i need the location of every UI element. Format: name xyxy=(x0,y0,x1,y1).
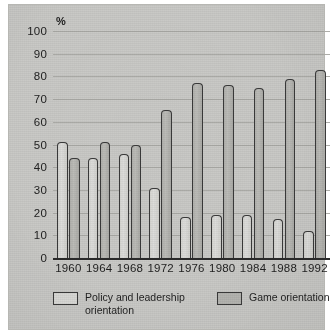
bar-game-1984 xyxy=(254,88,265,258)
legend-item-policy: Policy and leadership orientation xyxy=(53,291,203,316)
legend-label-policy: Policy and leadership orientation xyxy=(85,291,185,316)
bar-game-1968 xyxy=(131,145,142,259)
bar-policy-1980 xyxy=(211,215,222,258)
x-axis-ticks: 196019641968197219761980198419881992 xyxy=(53,262,330,280)
bar-policy-1992 xyxy=(303,231,314,258)
bar-policy-1972 xyxy=(149,188,160,258)
x-tick-label-1976: 1976 xyxy=(178,262,204,274)
y-tick-label: 10 xyxy=(34,229,47,241)
gridline xyxy=(53,31,330,32)
bar-game-1976 xyxy=(192,83,203,258)
y-tick-label: 90 xyxy=(34,48,47,60)
legend-swatch-game-icon xyxy=(217,292,242,305)
axis-baseline xyxy=(53,258,330,260)
bar-policy-1984 xyxy=(242,215,253,258)
legend-item-game: Game orientation xyxy=(217,291,330,305)
bar-game-1988 xyxy=(285,79,296,258)
gridline xyxy=(53,54,330,55)
y-tick-label: 80 xyxy=(34,70,47,82)
legend-label-game-line1: Game orientation xyxy=(249,291,330,303)
x-tick-label-1980: 1980 xyxy=(209,262,235,274)
x-tick-label-1984: 1984 xyxy=(240,262,266,274)
y-tick-label: 70 xyxy=(34,93,47,105)
bar-policy-1968 xyxy=(119,154,130,258)
legend-label-game: Game orientation xyxy=(249,291,330,304)
x-tick-label-1964: 1964 xyxy=(86,262,112,274)
chart-legend: Policy and leadership orientation Game o… xyxy=(53,291,333,316)
x-tick-label-1972: 1972 xyxy=(148,262,174,274)
legend-label-policy-line2: orientation xyxy=(85,304,134,316)
bar-game-1960 xyxy=(69,158,80,258)
x-tick-label-1968: 1968 xyxy=(117,262,143,274)
legend-swatch-policy-icon xyxy=(53,292,78,305)
bar-policy-1964 xyxy=(88,158,99,258)
bar-policy-1976 xyxy=(180,217,191,258)
y-tick-label: 60 xyxy=(34,116,47,128)
y-axis-unit-label: % xyxy=(56,15,66,27)
y-tick-label: 50 xyxy=(34,139,47,151)
y-tick-label: 100 xyxy=(27,25,47,37)
bar-policy-1988 xyxy=(273,219,284,258)
chart-panel: % 0102030405060708090100 196019641968197… xyxy=(8,4,325,330)
y-tick-label: 30 xyxy=(34,184,47,196)
y-tick-label: 40 xyxy=(34,161,47,173)
bar-game-1992 xyxy=(315,70,326,258)
x-tick-label-1988: 1988 xyxy=(271,262,297,274)
gridline xyxy=(53,76,330,77)
x-tick-label-1992: 1992 xyxy=(301,262,327,274)
bar-game-1972 xyxy=(161,110,172,258)
bar-game-1964 xyxy=(100,142,111,258)
x-tick-label-1960: 1960 xyxy=(55,262,81,274)
legend-label-policy-line1: Policy and leadership xyxy=(85,291,185,303)
plot-area: 0102030405060708090100 xyxy=(53,31,330,258)
y-tick-label: 20 xyxy=(34,207,47,219)
bar-game-1980 xyxy=(223,85,234,258)
chart-figure: % 0102030405060708090100 196019641968197… xyxy=(0,0,333,335)
bar-policy-1960 xyxy=(57,142,68,258)
y-tick-label: 0 xyxy=(40,252,47,264)
